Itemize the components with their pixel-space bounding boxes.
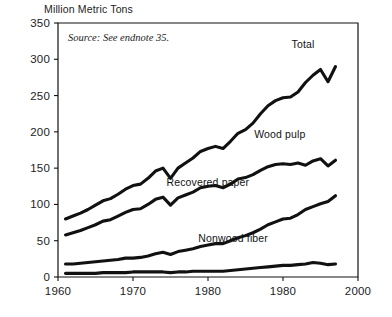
source-note: Source: See endnote 35. (68, 32, 169, 43)
x-tick-label: 1980 (270, 285, 296, 297)
x-tick-label: 2000 (345, 285, 371, 297)
series-label-wood-pulp: Wood pulp (254, 128, 305, 140)
line-chart: 050100150200250300350 196019701980198020… (0, 0, 392, 317)
y-tick-label: 350 (30, 17, 50, 29)
series-label-nonwood-fiber: Nonwood fiber (198, 232, 268, 244)
y-tick-label: 200 (30, 126, 50, 138)
y-tick-label: 50 (37, 235, 50, 247)
chart-background (0, 0, 392, 317)
y-tick-label: 250 (30, 90, 50, 102)
chart-figure: 050100150200250300350 196019701980198020… (0, 0, 392, 317)
series-label-recovered-paper: Recovered paper (166, 176, 249, 188)
y-axis-title: Million Metric Tons (44, 3, 133, 15)
x-tick-label: 1970 (120, 285, 146, 297)
x-tick-label: 1960 (45, 285, 71, 297)
y-tick-label: 150 (30, 162, 50, 174)
y-tick-label: 0 (43, 271, 50, 283)
x-tick-label: 1980 (195, 285, 221, 297)
series-label-total: Total (292, 38, 315, 50)
y-tick-label: 100 (30, 198, 50, 210)
y-tick-label: 300 (30, 53, 50, 65)
